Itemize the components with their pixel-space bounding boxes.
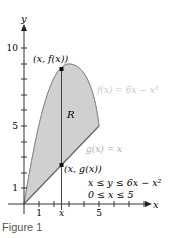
point-f-label: (x, f(x)) bbox=[33, 53, 68, 64]
inequality-y: x ≤ y ≤ 6x − x² bbox=[88, 177, 161, 188]
point-g-label: (x, g(x)) bbox=[64, 163, 102, 174]
x-axis-label: x bbox=[153, 199, 159, 210]
y-tick-5: 5 bbox=[12, 121, 18, 131]
y-tick-10: 10 bbox=[7, 43, 19, 53]
x-tick-1: 1 bbox=[36, 208, 42, 218]
inequality-x: 0 ≤ x ≤ 5 bbox=[88, 189, 133, 200]
figure-caption: Figure 1 bbox=[2, 221, 42, 233]
region-label: R bbox=[66, 109, 75, 120]
x-axis-arrow-icon bbox=[145, 201, 152, 207]
y-axis-label: y bbox=[20, 13, 27, 24]
f-curve-label: f(x) = 6x − x² bbox=[96, 85, 159, 95]
g-curve-label: g(x) = x bbox=[86, 144, 122, 154]
x-tick-x: x bbox=[59, 208, 64, 218]
y-tick-1: 1 bbox=[12, 183, 18, 193]
point-g bbox=[60, 163, 64, 167]
x-tick-5: 5 bbox=[96, 208, 102, 218]
figure-canvas: y x 10 5 1 1 x 5 (x, f(x)) (x, g(x)) R f… bbox=[0, 0, 170, 238]
point-f bbox=[60, 67, 64, 71]
y-axis-arrow-icon bbox=[21, 24, 27, 31]
